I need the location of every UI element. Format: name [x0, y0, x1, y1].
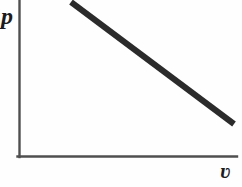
pv-diagram-figure: p ʋ	[0, 0, 242, 187]
x-axis-label: ʋ	[220, 161, 230, 182]
plot-canvas	[0, 0, 242, 187]
y-axis-label: p	[1, 4, 13, 28]
data-line-series-1	[71, 2, 234, 124]
